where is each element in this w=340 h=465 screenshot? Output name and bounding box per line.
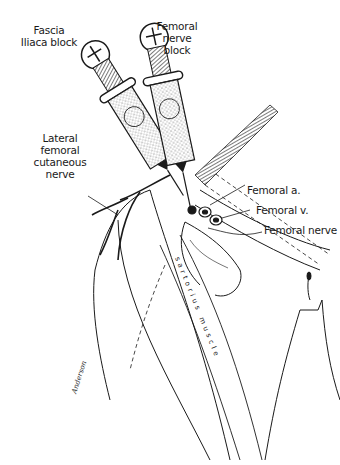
- label-femoral-nerve: Femoral nerve: [264, 224, 337, 236]
- pubic-detail: [307, 272, 311, 300]
- femoral-nerve-section: [188, 206, 196, 214]
- femoral-vessels-band: [195, 105, 278, 185]
- label-femoral-nerve-block: Femoral nerve block: [152, 20, 202, 56]
- dashed-contours: [130, 170, 330, 370]
- label-lateral-femoral-cutaneous-nerve: Lateral femoral cutaneous nerve: [32, 132, 88, 180]
- artist-signature: Anderson: [70, 359, 89, 395]
- label-femoral-artery: Femoral a.: [247, 184, 300, 196]
- label-fascia-iliaca-block: Fascia Iliaca block: [14, 24, 84, 48]
- leader-lines: [88, 185, 262, 235]
- label-femoral-vein: Femoral v.: [256, 204, 308, 216]
- vessel-sections: [188, 206, 222, 225]
